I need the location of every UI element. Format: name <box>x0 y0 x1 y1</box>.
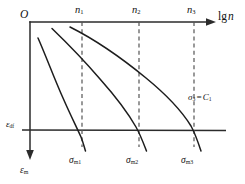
x-axis-label-lg: lg <box>218 10 228 22</box>
y-axis-arrow-icon <box>26 150 34 160</box>
endurance-limit-line <box>22 130 226 131</box>
stress-label-sigma-m3: σm3 <box>181 156 193 166</box>
y-axis-label: εm <box>20 166 28 176</box>
origin-label: O <box>20 9 28 21</box>
stress-label-sigma-m2: σm2 <box>126 156 138 166</box>
x-axis-arrow-icon <box>206 18 216 26</box>
endurance-limit-sub: df <box>10 123 15 129</box>
stress-label-sigma-m3-sub: m3 <box>186 159 194 165</box>
curve-sigma-m2 <box>52 29 147 152</box>
annotation-c-sub: 1 <box>209 96 212 102</box>
tick-label-n3: n3 <box>187 5 196 16</box>
tick-label-n3-sub: 3 <box>192 8 195 15</box>
tick-label-n1-sub: 1 <box>80 8 83 15</box>
endurance-limit-label: εdf <box>6 120 14 129</box>
stress-label-sigma-m1: σm1 <box>69 156 81 166</box>
annotation-sigma3-equals-c1: σ3 = C1 <box>188 93 212 102</box>
x-axis-label-n: n <box>228 10 234 22</box>
y-axis-label-sub: m <box>24 169 29 175</box>
x-axis-label: lg n <box>218 11 234 23</box>
annotation-equals-c: = C <box>195 92 209 102</box>
tick-label-n2: n2 <box>132 5 141 16</box>
tick-label-n2-sub: 2 <box>137 8 140 15</box>
stress-label-sigma-m1-sub: m1 <box>74 159 82 165</box>
fatigue-curve-figure: O lg n n1 n2 n3 εdf εm σm1 σm2 σm3 σ3 = … <box>0 0 245 184</box>
stress-label-sigma-m2-sub: m2 <box>131 159 139 165</box>
tick-label-n1: n1 <box>75 5 84 16</box>
curve-sigma-m3 <box>70 27 201 151</box>
